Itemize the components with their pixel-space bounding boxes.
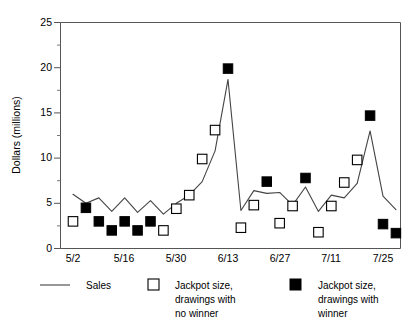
x-tick-label-1: 5/16: [114, 252, 135, 264]
winner-marker: [378, 219, 388, 229]
x-tick-label-0: 5/2: [66, 252, 81, 264]
winner-marker: [391, 228, 401, 238]
legend-label-winner-line2: drawings with: [318, 294, 379, 305]
x-tick-label-4: 6/27: [270, 252, 291, 264]
winner-marker: [365, 111, 375, 121]
x-tick-label-2: 5/30: [166, 252, 187, 264]
no-winner-marker: [159, 226, 169, 236]
legend-open-square-swatch: [148, 279, 159, 290]
x-tick-label-5: 7/11: [321, 252, 341, 264]
winner-marker: [146, 217, 156, 227]
y-tick-label-10: 10: [40, 151, 52, 163]
no-winner-marker-group: [68, 125, 362, 237]
chart-container: Dollars (millions) 25 20 15 10 5 0 5/2: [0, 0, 416, 331]
no-winner-marker: [68, 217, 78, 227]
x-tick-label-6: 7/25: [373, 252, 394, 264]
y-tick-label-15: 15: [40, 106, 52, 118]
winner-marker: [301, 173, 311, 183]
winner-marker: [223, 64, 233, 74]
legend-label-no-winner-line2: drawings with: [175, 294, 236, 305]
winner-marker-group: [81, 64, 401, 238]
no-winner-marker: [249, 200, 259, 210]
no-winner-marker: [275, 218, 285, 228]
no-winner-marker: [314, 227, 324, 237]
lottery-sales-jackpot-chart: Dollars (millions) 25 20 15 10 5 0 5/2: [0, 0, 416, 331]
sales-line-series: [73, 79, 396, 214]
no-winner-marker: [352, 155, 362, 165]
legend-label-sales: Sales: [86, 280, 111, 291]
no-winner-marker: [197, 154, 207, 164]
winner-marker: [81, 203, 91, 213]
no-winner-marker: [210, 125, 220, 135]
y-tick-label-25: 25: [40, 16, 52, 28]
legend-label-winner-line3: winner: [317, 308, 348, 319]
winner-marker: [262, 177, 272, 187]
no-winner-marker: [172, 204, 182, 214]
chart-legend: Sales Jackpot size, drawings with no win…: [40, 279, 379, 319]
legend-label-winner-line1: Jackpot size,: [318, 280, 376, 291]
y-tick-label-5: 5: [46, 196, 52, 208]
no-winner-marker: [185, 190, 195, 200]
y-axis-minor-ticks: [57, 45, 61, 226]
legend-label-no-winner-line3: no winner: [175, 308, 219, 319]
no-winner-marker: [236, 223, 246, 233]
plot-frame: [61, 23, 401, 249]
y-tick-label-20: 20: [40, 61, 52, 73]
legend-filled-square-swatch: [290, 279, 301, 290]
winner-marker: [94, 217, 104, 227]
no-winner-marker: [340, 178, 350, 188]
no-winner-marker: [327, 201, 337, 211]
y-tick-label-0: 0: [46, 242, 52, 254]
winner-marker: [133, 226, 143, 236]
x-tick-label-3: 6/13: [218, 252, 239, 264]
y-axis-title: Dollars (millions): [10, 96, 22, 174]
legend-label-no-winner-line1: Jackpot size,: [175, 280, 233, 291]
winner-marker: [120, 217, 130, 227]
winner-marker: [107, 226, 117, 236]
no-winner-marker: [288, 201, 298, 211]
